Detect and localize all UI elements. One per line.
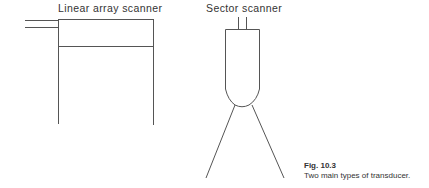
sector-scanner bbox=[206, 17, 284, 178]
caption-title: Fig. 10.3 bbox=[304, 161, 410, 171]
caption-text: Two main types of transducer. bbox=[304, 171, 410, 181]
sector-beam-right bbox=[252, 105, 284, 178]
sector-probe-body bbox=[226, 30, 260, 107]
transducer-diagram bbox=[0, 0, 429, 188]
sector-beam-left bbox=[206, 105, 235, 178]
linear-array-scanner bbox=[25, 19, 154, 125]
figure-caption: Fig. 10.3 Two main types of transducer. bbox=[304, 161, 410, 181]
